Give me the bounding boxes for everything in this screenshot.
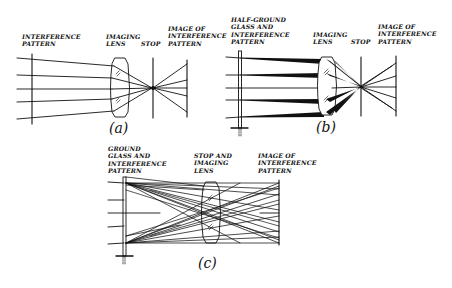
diverging-rays [361,63,396,111]
caption-a: (a) [109,120,128,136]
caption-c: (c) [198,255,217,271]
diagram-b [226,51,396,136]
label-half-ground-glass: HALF-GROUND GLASS AND INTERFERENCE PATTE… [231,16,289,46]
label-image-of-interference-pattern: IMAGE OF INTERFERENCE PATTERN [378,23,436,45]
label-image-of-interference-pattern: IMAGE OF INTERFERENCE PATTERN [258,152,316,174]
imaging-lens [318,57,337,115]
ground-glass [123,177,126,256]
diagram-a [17,54,187,124]
incoming-rays [226,57,240,118]
label-stop: STOP [141,40,161,47]
imaging-lens [111,58,130,117]
label-imaging-lens: IMAGING LENS [106,33,140,48]
diverging-rays [153,64,187,112]
scattered-ray-bundles [240,58,324,118]
converging-rays [112,66,152,111]
label-imaging-lens: IMAGING LENS [313,31,347,46]
label-interference-pattern: INTERFERENCE PATTERN [22,33,80,48]
caption-b: (b) [316,119,336,135]
label-ground-glass: GROUND GLASS AND INTERFERENCE PATTERN [108,145,166,175]
label-image-of-interference-pattern: IMAGE OF INTERFERENCE PATTERN [168,25,226,47]
label-stop-and-imaging-lens: STOP AND IMAGING LENS [194,152,232,174]
label-stop: STOP [351,38,371,45]
diagram-c [108,177,279,264]
